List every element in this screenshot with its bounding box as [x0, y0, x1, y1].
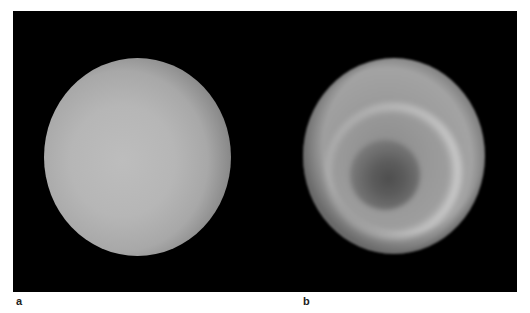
sphere-b-rim-shading	[303, 58, 485, 254]
panel-label-b: b	[303, 296, 310, 307]
sphere-a-image	[44, 58, 231, 256]
figure-panel	[13, 11, 517, 292]
sphere-b-image	[303, 58, 485, 254]
panel-label-a: a	[16, 296, 22, 307]
